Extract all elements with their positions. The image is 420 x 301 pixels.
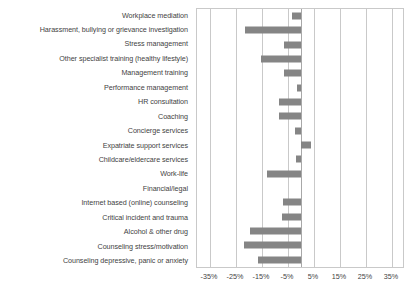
bar-row	[197, 52, 403, 66]
bar-row	[197, 181, 403, 195]
bar[interactable]	[292, 13, 301, 20]
value-axis-ticks: -35%-25%-15%-5%5%15%25%35%	[196, 272, 404, 286]
bar-row	[197, 253, 403, 267]
bar[interactable]	[279, 99, 301, 106]
category-label: Childcare/eldercare services	[0, 152, 192, 166]
bar-row	[197, 167, 403, 181]
bar[interactable]	[282, 213, 302, 220]
category-label: Alcohol & other drug	[0, 225, 192, 239]
category-label: HR consultation	[0, 95, 192, 109]
bar[interactable]	[261, 56, 301, 63]
bar-row	[197, 109, 403, 123]
bar-row	[197, 95, 403, 109]
axis-tick-label: 25%	[358, 272, 372, 281]
bar-row	[197, 138, 403, 152]
bar-row	[197, 238, 403, 252]
category-label: Other specialist training (healthy lifes…	[0, 51, 192, 65]
category-label: Harassment, bullying or grievance invest…	[0, 22, 192, 36]
category-label: Coaching	[0, 109, 192, 123]
category-label: Internet based (online) counseling	[0, 196, 192, 210]
bar[interactable]	[284, 41, 301, 48]
category-label: Workplace mediation	[0, 8, 192, 22]
category-label: Management training	[0, 66, 192, 80]
bar[interactable]	[297, 84, 301, 91]
category-label: Counseling depressive, panic or anxiety	[0, 253, 192, 267]
category-label: Stress management	[0, 37, 192, 51]
bar-row	[197, 66, 403, 80]
bar[interactable]	[245, 27, 301, 34]
bar[interactable]	[295, 127, 302, 134]
axis-tick-label: -25%	[227, 272, 244, 281]
bar-series	[197, 9, 403, 267]
category-label: Critical incident and trauma	[0, 210, 192, 224]
bar[interactable]	[284, 70, 301, 77]
axis-tick-label: -35%	[201, 272, 218, 281]
bar-row	[197, 224, 403, 238]
bar[interactable]	[250, 228, 301, 235]
bar-row	[197, 38, 403, 52]
bar-row	[197, 152, 403, 166]
bar[interactable]	[244, 242, 301, 249]
bar-row	[197, 23, 403, 37]
axis-tick-label: 35%	[384, 272, 398, 281]
category-label: Expatriate support services	[0, 138, 192, 152]
bar[interactable]	[296, 156, 301, 163]
bar[interactable]	[283, 199, 301, 206]
bar[interactable]	[301, 142, 311, 149]
bar-row	[197, 9, 403, 23]
bar[interactable]	[258, 256, 301, 263]
bar[interactable]	[279, 113, 301, 120]
category-label: Performance management	[0, 80, 192, 94]
bar-row	[197, 124, 403, 138]
category-label: Financial/legal	[0, 181, 192, 195]
category-label: Work-life	[0, 167, 192, 181]
category-axis-labels: Workplace mediation Harassment, bullying…	[0, 8, 192, 268]
axis-tick-label: 5%	[308, 272, 318, 281]
axis-tick-label: -5%	[281, 272, 294, 281]
bar-row	[197, 210, 403, 224]
bar[interactable]	[267, 170, 301, 177]
bar-row	[197, 195, 403, 209]
axis-tick-label: 15%	[332, 272, 346, 281]
plot-area	[196, 8, 404, 268]
category-label: Counseling stress/motivation	[0, 239, 192, 253]
axis-tick-label: -15%	[253, 272, 270, 281]
bar-row	[197, 81, 403, 95]
category-label: Concierge services	[0, 124, 192, 138]
horizontal-bar-chart: Workplace mediation Harassment, bullying…	[0, 0, 420, 301]
